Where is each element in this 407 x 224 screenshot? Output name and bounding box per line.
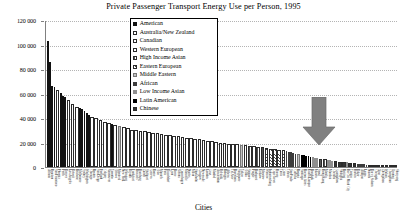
y-axis-tick-mark — [41, 46, 44, 47]
bar — [202, 140, 206, 167]
bar — [235, 144, 239, 167]
legend-item-label: American — [140, 21, 163, 27]
legend-item: Eastern European — [133, 63, 215, 72]
bar — [368, 165, 372, 167]
bar — [75, 107, 79, 167]
bar — [185, 138, 189, 167]
legend-item: Low Income Asian — [133, 88, 215, 97]
legend-item: Middle Eastern — [133, 71, 215, 80]
legend-item: African — [133, 80, 215, 89]
bar — [181, 137, 185, 167]
x-axis-tick-labels: AtlantaHoustonSan FranciscoPhoenixPerthD… — [45, 169, 398, 201]
x-axis-title: Cities — [0, 203, 407, 212]
bar — [206, 141, 210, 167]
down-arrow-annotation — [302, 97, 336, 146]
legend-item-label: Chinese — [140, 106, 159, 112]
legend: AmericanAustralia/New ZealandCanadianWes… — [130, 18, 218, 116]
legend-item-label: Australia/New Zealand — [140, 30, 195, 36]
y-axis-tick-label: 80 000 — [20, 67, 36, 73]
bar — [252, 146, 256, 167]
legend-item: Canadian — [133, 37, 215, 46]
legend-item: Chinese — [133, 105, 215, 114]
bar — [164, 135, 168, 167]
bar — [265, 148, 269, 167]
legend-swatch-icon — [133, 56, 137, 60]
bar — [334, 161, 338, 167]
bar — [198, 139, 202, 167]
bar — [353, 163, 357, 167]
bar — [231, 144, 235, 167]
bar — [103, 122, 107, 167]
bar — [381, 165, 385, 167]
legend-item: High Income Asian — [133, 54, 215, 63]
bar — [319, 159, 323, 167]
bar — [297, 154, 301, 167]
bar — [227, 144, 231, 167]
bar — [393, 165, 397, 167]
bar — [122, 127, 126, 167]
bar — [189, 138, 193, 167]
plot-area — [45, 21, 397, 168]
legend-swatch-icon — [133, 65, 137, 69]
y-axis-tick-mark — [41, 168, 44, 169]
y-axis-tick-label: 20 000 — [20, 141, 36, 147]
y-axis-tick-label: 40 000 — [20, 116, 36, 122]
legend-item-label: High Income Asian — [140, 55, 186, 61]
bar — [348, 163, 352, 167]
bar — [126, 128, 130, 167]
bar — [210, 141, 214, 167]
bar — [160, 134, 164, 167]
chart-screenshot: Private Passenger Transport Energy Use p… — [0, 0, 407, 224]
legend-swatch-icon — [133, 48, 137, 52]
y-axis-tick-mark — [41, 119, 44, 120]
bar — [282, 150, 286, 167]
bar — [244, 145, 248, 167]
bar — [118, 126, 122, 167]
bar — [214, 142, 218, 167]
bar — [372, 165, 376, 167]
legend-item-label: Eastern European — [140, 64, 182, 70]
legend-item: Western European — [133, 46, 215, 55]
legend-item-label: Middle Eastern — [140, 72, 176, 78]
bar — [376, 165, 380, 167]
bar — [338, 162, 342, 167]
legend-swatch-icon — [133, 107, 137, 111]
bar — [90, 117, 94, 167]
bar — [248, 146, 252, 167]
legend-item-label: Latin American — [140, 98, 177, 104]
bar — [223, 143, 227, 167]
bar — [269, 149, 273, 167]
bar — [261, 147, 265, 167]
y-axis-tick-label: 60 000 — [20, 92, 36, 98]
y-axis-tick-mark — [41, 144, 44, 145]
y-axis-tick-label: 0 — [33, 165, 36, 171]
bar — [240, 145, 244, 167]
bar — [151, 133, 155, 167]
y-axis: 020 00040 00060 00080 000100 000120 000 — [0, 0, 41, 176]
bar — [67, 100, 71, 167]
bar — [99, 120, 103, 167]
bar — [143, 131, 147, 167]
bar — [113, 125, 117, 167]
legend-swatch-icon — [133, 31, 137, 35]
legend-swatch-icon — [133, 73, 137, 77]
legend-swatch-icon — [133, 99, 137, 103]
legend-swatch-icon — [133, 39, 137, 43]
y-axis-tick-mark — [41, 21, 44, 22]
bar — [107, 123, 111, 167]
bar — [139, 131, 143, 167]
bar — [385, 165, 389, 167]
y-axis-tick-mark — [41, 95, 44, 96]
legend-swatch-icon — [133, 82, 137, 86]
bar — [156, 133, 160, 167]
bar — [323, 159, 327, 167]
bar — [273, 149, 277, 167]
legend-item: Latin American — [133, 97, 215, 106]
bar — [342, 162, 346, 167]
bar — [256, 147, 260, 167]
bar — [193, 139, 197, 167]
bar — [134, 130, 138, 167]
bar — [172, 136, 176, 167]
legend-item-label: Canadian — [140, 38, 162, 44]
legend-item: Australia/New Zealand — [133, 29, 215, 38]
